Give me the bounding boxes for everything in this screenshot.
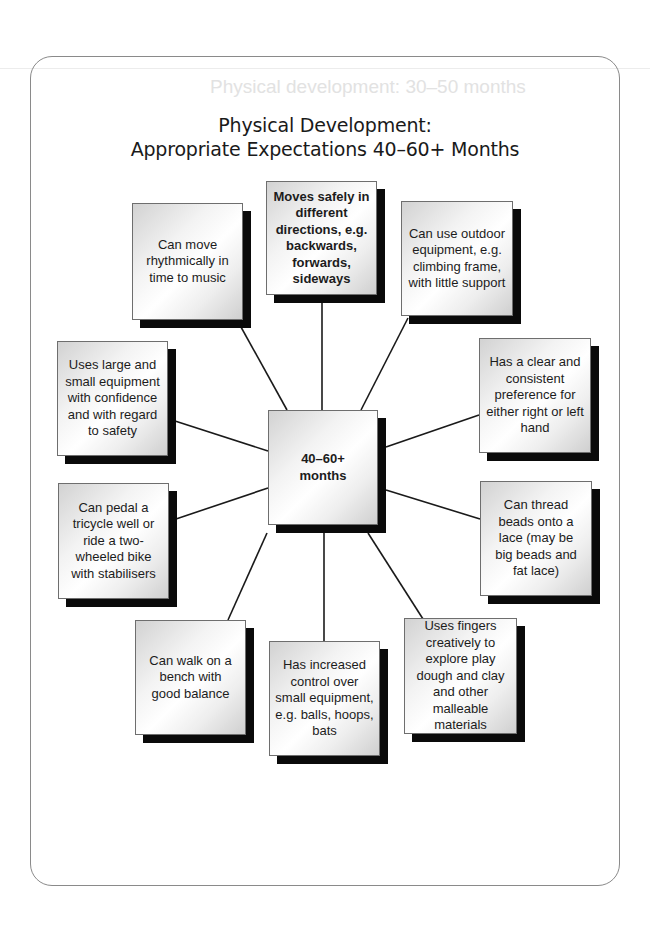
node-bottom-left: Can walk on a bench with good balance bbox=[135, 620, 246, 735]
node-face: Can pedal a tricycle well or ride a two-… bbox=[58, 483, 169, 599]
connector-top-left bbox=[236, 318, 287, 410]
node-label: Uses large and small equipment with conf… bbox=[62, 357, 163, 440]
node-face: Uses fingers creatively to explore play … bbox=[404, 618, 517, 734]
node-face: Can walk on a bench with good balance bbox=[135, 620, 246, 735]
node-top-center: Moves safely in different directions, e.… bbox=[266, 181, 377, 295]
connector-left-upper bbox=[175, 421, 268, 451]
node-label: Can pedal a tricycle well or ride a two-… bbox=[65, 500, 162, 583]
node-label: Can move rhythmically in time to music bbox=[139, 237, 236, 287]
node-label: Moves safely in different directions, e.… bbox=[270, 189, 373, 288]
node-face: Has a clear and consistent preference fo… bbox=[479, 338, 591, 453]
node-right-upper: Has a clear and consistent preference fo… bbox=[479, 338, 591, 453]
connector-bottom-right bbox=[368, 533, 423, 619]
node-label: Can use outdoor equipment, e.g. climbing… bbox=[405, 226, 509, 292]
node-top-right: Can use outdoor equipment, e.g. climbing… bbox=[401, 201, 513, 316]
node-face: Can move rhythmically in time to music bbox=[132, 203, 243, 320]
node-face: Can thread beads onto a lace (may be big… bbox=[480, 481, 592, 596]
node-face: Has increased control over small equipme… bbox=[269, 641, 380, 756]
connector-top-right bbox=[361, 318, 408, 410]
node-face: Uses large and small equipment with conf… bbox=[57, 341, 168, 456]
center-node-label: 40–60+ months bbox=[288, 451, 358, 484]
node-right-lower: Can thread beads onto a lace (may be big… bbox=[480, 481, 592, 596]
node-left-upper: Uses large and small equipment with conf… bbox=[57, 341, 168, 456]
node-bottom-center: Has increased control over small equipme… bbox=[269, 641, 380, 756]
node-label: Has a clear and consistent preference fo… bbox=[486, 354, 584, 437]
node-bottom-right: Uses fingers creatively to explore play … bbox=[404, 618, 517, 734]
node-label: Can thread beads onto a lace (may be big… bbox=[491, 497, 581, 580]
center-node: 40–60+ months bbox=[268, 410, 378, 525]
node-top-left: Can move rhythmically in time to music bbox=[132, 203, 243, 320]
connector-bottom-left bbox=[228, 533, 267, 620]
node-label: Has increased control over small equipme… bbox=[274, 657, 375, 740]
connector-right-upper bbox=[386, 415, 479, 447]
node-face: Moves safely in different directions, e.… bbox=[266, 181, 377, 295]
node-left-lower: Can pedal a tricycle well or ride a two-… bbox=[58, 483, 169, 599]
connector-left-lower bbox=[176, 488, 268, 519]
node-label: Can walk on a bench with good balance bbox=[146, 653, 235, 703]
node-face: Can use outdoor equipment, e.g. climbing… bbox=[401, 201, 513, 316]
connector-right-lower bbox=[386, 490, 480, 519]
node-label: Uses fingers creatively to explore play … bbox=[408, 618, 513, 734]
node-face: 40–60+ months bbox=[268, 410, 378, 525]
